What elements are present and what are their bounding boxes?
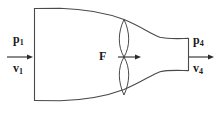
throat-force-arrow: [118, 54, 141, 59]
flow-arrows: [7, 54, 214, 59]
duct-outline: [35, 8, 189, 101]
duct-flow-diagram: p1 v1 p4 v4 F: [0, 0, 219, 114]
inlet-flow-arrow: [7, 55, 33, 60]
inlet-pressure-label: p1: [13, 33, 24, 45]
throat-force-label: F: [99, 50, 106, 62]
duct-top-wall: [35, 8, 189, 38]
inlet-velocity-subscript: 1: [19, 67, 23, 76]
outlet-pressure-subscript: 4: [200, 39, 204, 48]
outlet-flow-arrow: [189, 55, 214, 60]
throat-force-symbol: F: [99, 49, 106, 63]
duct-bottom-wall: [35, 70, 189, 100]
inlet-pressure-symbol: p: [13, 32, 20, 46]
inlet-velocity-label: v1: [13, 62, 23, 74]
inlet-pressure-subscript: 1: [20, 38, 24, 47]
diagram-canvas: [0, 0, 219, 114]
outlet-pressure-symbol: p: [193, 33, 200, 47]
outlet-velocity-label: v4: [193, 62, 203, 74]
outlet-pressure-label: p4: [193, 34, 204, 46]
restriction-upper-lobe: [119, 20, 128, 58]
outlet-velocity-subscript: 4: [199, 67, 203, 76]
